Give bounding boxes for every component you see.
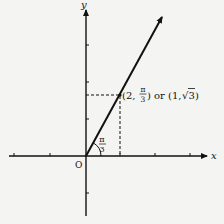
origin-label: O <box>75 160 82 170</box>
angle-label-numerator: π <box>99 135 104 144</box>
y-axis-label: y <box>80 0 87 10</box>
point-label-frac-den: 3 <box>141 95 146 104</box>
ray-theta-pi-over-3 <box>86 17 162 156</box>
point-label-prefix: (2, <box>122 90 135 101</box>
diagram-canvas: π 3 (2, π 3 ) or (1, √ 3 ) x y O <box>0 0 224 224</box>
point-label-suffix: ) <box>195 90 199 101</box>
point-label-frac-num: π <box>141 85 146 94</box>
point-label-radicand: 3 <box>189 90 195 101</box>
x-axis-label: x <box>211 150 217 161</box>
angle-label-denominator: 3 <box>99 145 104 154</box>
point-label-middle: ) or (1, <box>147 90 182 101</box>
polar-coordinate-diagram: π 3 (2, π 3 ) or (1, √ 3 ) x y O <box>0 0 224 224</box>
